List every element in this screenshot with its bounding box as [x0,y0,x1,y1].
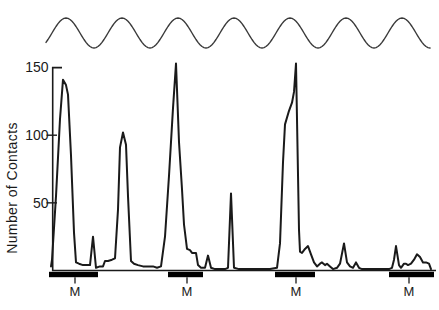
m-markers: MMMM [49,272,434,299]
y-tick-label: 100 [25,127,49,143]
m-period-bar [49,272,98,277]
y-tick-label: 50 [33,195,49,211]
contacts-chart: 50100150 Number of Contacts MMMM [0,0,439,310]
m-period-bar [389,272,434,277]
m-label: M [291,284,302,299]
m-label: M [404,284,415,299]
m-label: M [182,284,193,299]
contacts-rhythm-figure: 50100150 Number of Contacts MMMM [0,0,439,310]
y-tick-label: 150 [25,59,49,75]
axis-lines [53,68,436,271]
m-period-bar [275,272,315,277]
y-tick-labels: 50100150 [25,59,49,210]
m-label: M [70,284,81,299]
m-period-bar [168,272,203,277]
contacts-line [51,64,431,270]
y-axis-title: Number of Contacts [4,122,20,254]
lunar-cycle-wave-icon [46,18,430,48]
